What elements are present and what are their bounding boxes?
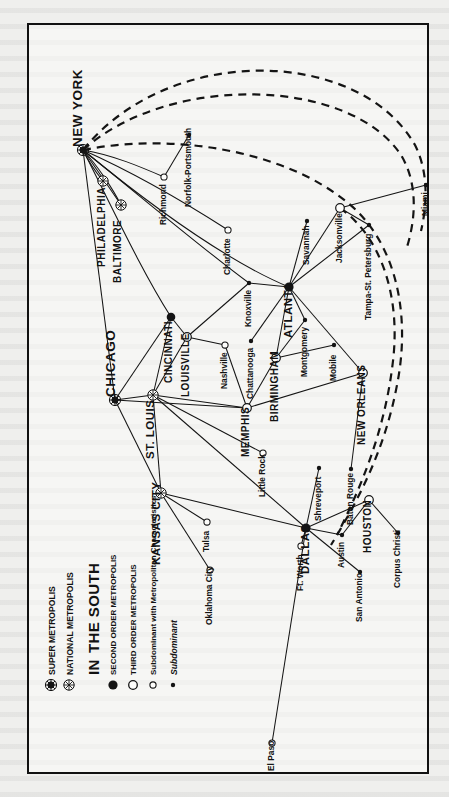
node-dallas [301,523,310,532]
solid-link-group [83,135,426,743]
node-ft-worth [298,543,304,549]
legend-symbol-group [45,679,175,690]
node-montgomery [303,318,307,322]
node-baltimore [116,200,126,210]
node-chattanooga [249,339,253,343]
node-jacksonville [336,204,345,213]
node-mobile [332,343,336,347]
legend-symbol-subdominant-metro-characteristics [150,682,156,688]
node-charlotte [225,227,231,233]
node-new-orleans [359,369,368,378]
map-diagram-canvas [29,25,427,772]
node-san-antonio [358,570,362,574]
node-nashville [222,342,228,348]
node-norfolk-portsmouth [187,133,191,137]
node-st-louis [148,390,158,400]
dashed-boundary-group [83,71,426,545]
node-oklahoma-city [207,567,213,573]
node-cincinnati [167,313,176,322]
node-el-paso [269,740,275,746]
node-shreveport [317,466,321,470]
node-tulsa [204,519,210,525]
node-corpus-christi [396,531,400,535]
node-tampa-st-petersburg [367,223,371,227]
node-baton-rouge [349,467,353,471]
node-birmingham [272,354,281,363]
node-chicago [109,394,120,405]
node-symbol-group [77,133,427,746]
node-richmond [161,174,167,180]
node-philadelphia [98,176,108,186]
node-savannah [305,219,309,223]
node-knoxville [247,281,251,285]
node-austin [340,533,344,537]
node-memphis [243,404,252,413]
legend-symbol-third-order-metropolis [129,681,138,690]
legend-symbol-national-metropolis [64,680,74,690]
node-houston [365,496,374,505]
node-little-rock [260,450,266,456]
legend-symbol-second-order-metropolis [108,680,117,689]
legend-symbol-subdominant [171,683,175,687]
node-new-york [77,144,88,155]
figure-frame: NEW YORK CHICAGO PHILADELPHIA BALTIMORE … [27,23,429,774]
legend-symbol-super-metropolis [45,679,56,690]
node-kansas-city [156,488,166,498]
node-atlanta [284,282,293,291]
node-louisville [183,333,192,342]
